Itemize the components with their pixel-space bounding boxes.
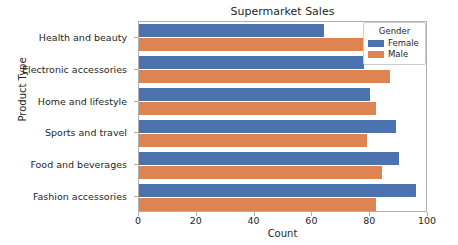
y-tick-label-4: Food and beverages [0, 159, 133, 170]
bar-male-2 [139, 102, 376, 115]
legend: Gender FemaleMale [363, 22, 426, 65]
x-axis-tick-labels: 020406080100 [0, 215, 458, 229]
y-tick-label-1: Electronic accessories [0, 63, 133, 74]
x-tick-label-1: 20 [190, 215, 202, 226]
bar-female-4 [139, 152, 399, 165]
x-tick-mark-2 [254, 212, 255, 216]
x-tick-mark-5 [427, 212, 428, 216]
bar-female-3 [139, 120, 396, 133]
x-axis-label: Count [138, 228, 427, 239]
legend-title: Gender [368, 26, 421, 36]
bar-male-5 [139, 198, 376, 211]
bar-male-1 [139, 70, 390, 83]
bar-male-3 [139, 134, 367, 147]
legend-entry-male: Male [368, 49, 421, 59]
legend-label-female: Female [388, 38, 419, 48]
y-tick-label-2: Home and lifestyle [0, 95, 133, 106]
bar-female-2 [139, 88, 370, 101]
x-tick-label-5: 100 [418, 215, 436, 226]
y-tick-label-5: Fashion accessories [0, 191, 133, 202]
y-tick-label-3: Sports and travel [0, 127, 133, 138]
x-tick-mark-1 [196, 212, 197, 216]
y-tick-mark-3 [134, 132, 138, 133]
x-tick-label-2: 40 [248, 215, 260, 226]
x-tick-label-3: 60 [305, 215, 317, 226]
y-axis-tick-labels: Health and beautyElectronic accessoriesH… [0, 21, 133, 212]
bar-male-0 [139, 38, 364, 51]
bar-female-1 [139, 56, 364, 69]
x-tick-mark-0 [138, 212, 139, 216]
legend-swatch-female-icon [368, 40, 384, 47]
legend-entries: FemaleMale [368, 38, 421, 59]
chart-figure: Supermarket Sales Product Type Health an… [0, 0, 458, 245]
x-tick-label-0: 0 [135, 215, 141, 226]
y-tick-mark-2 [134, 101, 138, 102]
bar-female-0 [139, 24, 324, 37]
x-tick-mark-3 [311, 212, 312, 216]
legend-swatch-male-icon [368, 51, 384, 58]
legend-entry-female: Female [368, 38, 421, 48]
bar-female-5 [139, 184, 416, 197]
x-tick-mark-4 [369, 212, 370, 216]
y-tick-mark-1 [134, 69, 138, 70]
y-tick-mark-0 [134, 37, 138, 38]
bar-male-4 [139, 166, 382, 179]
chart-title: Supermarket Sales [138, 5, 427, 18]
x-tick-label-4: 80 [363, 215, 375, 226]
y-tick-mark-5 [134, 196, 138, 197]
y-tick-label-0: Health and beauty [0, 31, 133, 42]
y-tick-mark-4 [134, 164, 138, 165]
legend-label-male: Male [388, 49, 408, 59]
